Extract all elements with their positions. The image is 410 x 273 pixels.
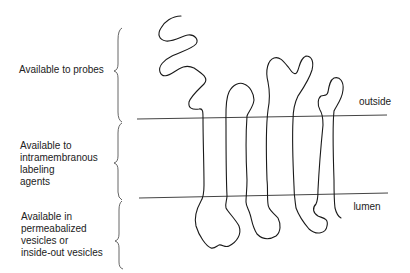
membrane-lines — [137, 115, 388, 198]
region-label-intramembranous: Available to intramembranous labeling ag… — [20, 140, 98, 188]
outer-membrane-line — [137, 115, 387, 119]
region-label-permeabilized: Available in permeabalized vesicles or i… — [21, 211, 103, 259]
inner-membrane-line — [139, 193, 388, 198]
region-permeabilized-line-2: permeabalized — [21, 223, 103, 235]
region-intramembranous-line-3: labeling — [20, 164, 98, 176]
region-intramembranous-line-4: agents — [20, 176, 98, 188]
outside-label: outside — [359, 96, 392, 107]
braces — [114, 28, 123, 269]
brace-probes — [114, 28, 122, 122]
brace-intramembranous — [114, 123, 122, 200]
region-label-probes: Available to probes — [19, 64, 104, 76]
region-intramembranous-line-1: Available to — [20, 140, 98, 152]
lumen-label: lumen — [353, 201, 380, 212]
region-probes-line-1: Available to probes — [19, 64, 104, 76]
region-permeabilized-line-3: vesicles or — [21, 235, 103, 247]
brace-permeabilized — [115, 201, 123, 269]
region-permeabilized-line-1: Available in — [21, 211, 103, 223]
protein-chain — [159, 16, 343, 248]
region-permeabilized-line-4: inside-out vesicles — [21, 247, 103, 259]
region-intramembranous-line-2: intramembranous — [20, 152, 98, 164]
